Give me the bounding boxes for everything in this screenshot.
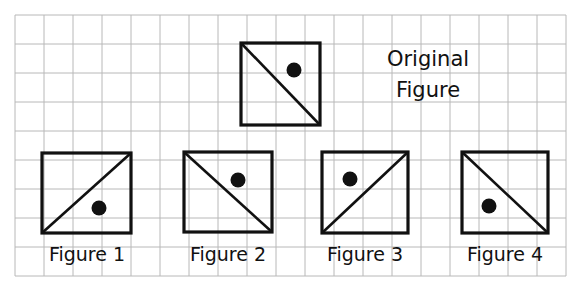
- original-figure-title-line-1: Original: [387, 47, 469, 71]
- figure-1-dot-marker: [92, 201, 107, 216]
- figure-1-diagonal-line: [42, 153, 131, 233]
- figure-2-dot-marker: [231, 173, 246, 188]
- original-figure: [241, 43, 320, 125]
- original-figure-title-line-2: Figure: [396, 78, 460, 102]
- figure-label-2: Figure 2: [190, 243, 266, 265]
- figure-2: [184, 152, 272, 232]
- worksheet-canvas: Original Figure Figure 1 Figure 2 Figure…: [0, 0, 583, 294]
- figure-4-dot-marker: [482, 199, 497, 214]
- figure-1: [42, 153, 131, 233]
- figure-4: [462, 152, 548, 233]
- figure-4-diagonal-line: [462, 152, 548, 233]
- figure-label-4: Figure 4: [467, 243, 543, 265]
- original-figure-diagonal-line: [241, 43, 320, 125]
- figure-3: [322, 152, 408, 233]
- figure-label-1: Figure 1: [49, 243, 125, 265]
- figure-3-dot-marker: [343, 172, 358, 187]
- figure-3-diagonal-line: [322, 152, 408, 233]
- figure-2-diagonal-line: [184, 152, 272, 232]
- original-figure-dot-marker: [287, 63, 302, 78]
- figure-label-3: Figure 3: [327, 243, 403, 265]
